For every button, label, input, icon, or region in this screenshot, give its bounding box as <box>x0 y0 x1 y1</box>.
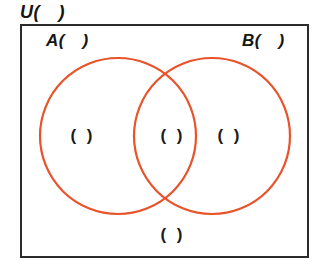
region-label-intersection: ( ) <box>161 126 184 146</box>
set-label-b: B( ) <box>242 31 285 51</box>
region-label-only-a: ( ) <box>71 126 94 146</box>
venn-diagram-figure: U( ) A( ) B( ) ( ) ( ) ( ) ( ) <box>0 0 326 269</box>
region-label-only-b: ( ) <box>218 126 241 146</box>
set-label-a: A( ) <box>46 31 89 51</box>
region-label-complement: ( ) <box>161 225 184 245</box>
universe-label: U( ) <box>20 1 65 23</box>
